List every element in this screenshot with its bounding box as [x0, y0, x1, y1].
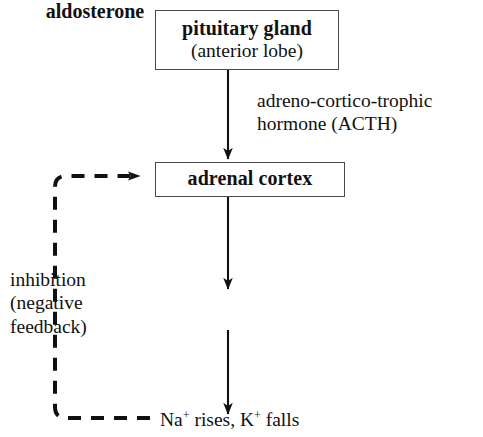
edge-label-inhibition-line3: feedback) — [10, 315, 87, 338]
node-pituitary-gland[interactable]: pituitary gland (anterior lobe) — [155, 10, 339, 70]
edge-label-acth: adreno-cortico-trophic hormone (ACTH) — [257, 90, 432, 136]
ion-sodium-label: Na — [160, 409, 183, 430]
node-adrenal-cortex-title: adrenal cortex — [156, 167, 344, 189]
edge-label-acth-line1: adreno-cortico-trophic — [257, 90, 432, 113]
ion-middle-text: rises, K — [190, 409, 254, 430]
ion-potassium-charge: + — [254, 408, 261, 422]
node-ion-effects: Na+ rises, K+ falls — [160, 409, 299, 432]
edge-label-inhibition: inhibition (negative feedback) — [10, 268, 87, 338]
edge-label-acth-line2: hormone (ACTH) — [257, 113, 432, 136]
node-adrenal-cortex[interactable]: adrenal cortex — [155, 162, 345, 197]
diagram-canvas: pituitary gland (anterior lobe) adrenal … — [0, 0, 483, 437]
node-pituitary-subtitle: (anterior lobe) — [156, 40, 338, 62]
ion-suffix-text: falls — [261, 409, 299, 430]
ion-sodium-charge: + — [183, 408, 190, 422]
edge-label-inhibition-line1: inhibition — [10, 268, 87, 291]
node-pituitary-title: pituitary gland — [156, 17, 338, 39]
edge-label-inhibition-line2: (negative — [10, 291, 87, 314]
